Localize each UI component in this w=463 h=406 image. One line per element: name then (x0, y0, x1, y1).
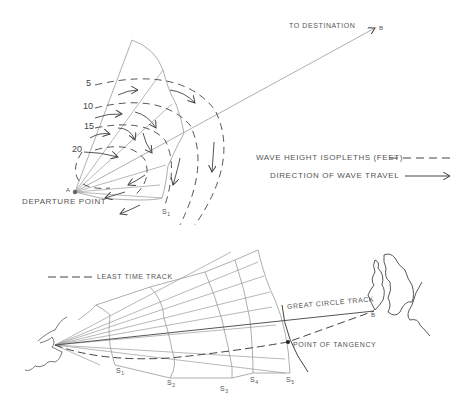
destination-line (75, 28, 375, 192)
isochrone-s3-label: S3 (220, 385, 229, 394)
to-destination-label: TO DESTINATION (289, 22, 355, 29)
isochrone-s2-label: S2 (167, 379, 176, 388)
direction-legend-label: DIRECTION OF WAVE TRAVEL (270, 171, 399, 180)
isopleth-value-15: 15 (84, 121, 94, 131)
isochrone-rays (55, 252, 285, 373)
destination-b-bottom-label: B (371, 312, 376, 318)
departure-a-label: A (66, 187, 71, 193)
s1-top-label: S1 (162, 208, 171, 217)
isopleth-value-10: 10 (83, 101, 93, 111)
point-of-tangency-marker (286, 340, 290, 344)
isopleth-value-20: 20 (72, 144, 82, 154)
point-of-tangency-label: POINT OF TANGENCY (293, 341, 376, 348)
isochrone-curves (78, 250, 290, 378)
departure-point-marker (73, 190, 77, 194)
british-isles-coastline (368, 254, 414, 315)
isopleth-value-5: 5 (86, 78, 91, 88)
isochrone-s4-label: S4 (250, 376, 259, 385)
least-time-track-legend-label: LEAST TIME TRACK (97, 273, 173, 280)
bottom-isochrone-diagram (25, 250, 430, 378)
isochrone-s5-label: S5 (286, 376, 295, 385)
departure-point-label: DEPARTURE POINT (22, 197, 106, 206)
isopleth-legend-label: WAVE HEIGHT ISOPLETHS (FEET) (256, 153, 403, 162)
top-fan-diagram (73, 28, 450, 225)
continental-coastline (408, 282, 430, 336)
destination-b-label: B (379, 25, 384, 31)
isochrone-s1-label: S1 (116, 367, 125, 376)
least-time-track-line (55, 311, 374, 359)
